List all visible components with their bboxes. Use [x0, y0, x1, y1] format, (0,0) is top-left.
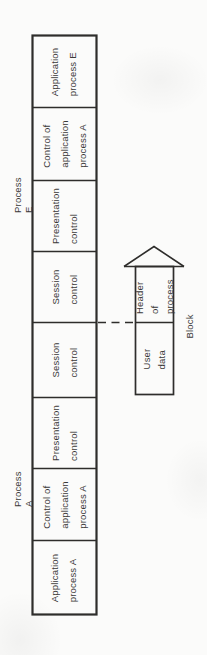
scanned-diagram-page: Process E Process A Application process … — [0, 0, 207, 655]
stack-bar-outline — [33, 36, 97, 615]
arrow-head-icon — [124, 247, 184, 267]
block-outline — [136, 267, 174, 395]
stack-bar-dividers — [33, 108, 97, 541]
diagram-line-art — [0, 0, 207, 655]
